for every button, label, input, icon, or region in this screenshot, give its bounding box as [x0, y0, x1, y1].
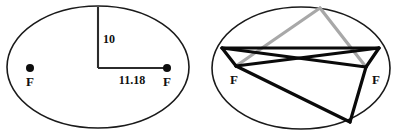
left-ellipse-diagram: 10 11.18 F F — [7, 6, 189, 128]
dark-chord-left-focus-to-bottom-vertex — [236, 66, 350, 122]
right-diagram-right-focus-label: F — [372, 72, 380, 87]
left-focus-label: F — [26, 74, 34, 89]
right-ellipse-diagram: F F — [212, 7, 390, 129]
right-diagram-left-focus-label: F — [230, 72, 238, 87]
semi-minor-axis-label: 10 — [103, 32, 115, 46]
gray-chord-top-to-right-focus — [320, 8, 366, 67]
right-focus-dot — [163, 64, 171, 72]
semi-major-axis-label: 11.18 — [119, 73, 145, 87]
geometry-figure-panel: 10 11.18 F F F F — [0, 0, 399, 140]
ellipse-diagram-canvas: 10 11.18 F F F F — [0, 0, 399, 140]
right-focus-label: F — [163, 74, 171, 89]
left-focus-dot — [26, 64, 34, 72]
dark-chord-bottom-vertex-to-right-focus — [350, 67, 366, 122]
